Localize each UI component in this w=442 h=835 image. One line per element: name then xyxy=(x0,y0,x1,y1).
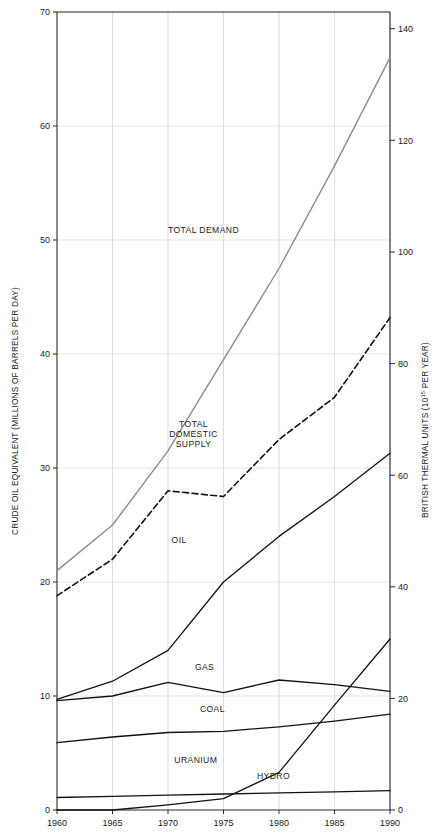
series-label-oil: OIL xyxy=(172,535,187,545)
y-axis-tick-label: 40 xyxy=(40,349,50,359)
y2-axis-tick-label: 40 xyxy=(398,582,408,592)
y-axis-tick-label: 70 xyxy=(40,7,50,17)
y2-axis-tick-label: 60 xyxy=(398,471,408,481)
y2-axis-tick-label: 140 xyxy=(398,24,413,34)
y-axis-title: CRUDE OIL EQUIVALENT (MILLIONS OF BARREL… xyxy=(11,287,20,535)
y2-axis-tick-label: 20 xyxy=(398,694,408,704)
series-label-total-domestic-supply: DOMESTIC xyxy=(169,429,218,439)
y-axis-tick-label: 0 xyxy=(45,805,50,815)
x-axis-tick-label: 1965 xyxy=(102,818,122,828)
y2-axis-tick-label: 80 xyxy=(398,359,408,369)
x-axis-tick-label: 1985 xyxy=(324,818,344,828)
y-axis-tick-label: 50 xyxy=(40,235,50,245)
y2-axis-title: BRITISH THERMAL UNITS (1015 PER YEAR) xyxy=(420,342,430,518)
series-label-coal: COAL xyxy=(200,704,225,714)
y2-axis-tick-label: 120 xyxy=(398,136,413,146)
y2-axis-tick-label: 0 xyxy=(398,805,403,815)
chart-figure: 0102030405060700204060801001201401960196… xyxy=(0,0,442,835)
x-axis-tick-label: 1975 xyxy=(213,818,233,828)
y-axis-tick-label: 60 xyxy=(40,121,50,131)
y-axis-tick-label: 20 xyxy=(40,577,50,587)
series-label-uranium: URANIUM xyxy=(174,755,217,765)
x-axis-tick-label: 1980 xyxy=(269,818,289,828)
x-axis-tick-label: 1970 xyxy=(158,818,178,828)
x-axis-tick-label: 1990 xyxy=(380,818,400,828)
series-label-total-domestic-supply: SUPPLY xyxy=(176,439,212,449)
x-axis-tick-label: 1960 xyxy=(47,818,67,828)
series-label-total-domestic-supply: TOTAL xyxy=(179,419,208,429)
series-label-gas: GAS xyxy=(195,662,214,672)
y-axis-tick-label: 10 xyxy=(40,691,50,701)
y-axis-tick-label: 30 xyxy=(40,463,50,473)
series-label-hydro: HYDRO xyxy=(257,771,290,781)
energy-supply-demand-chart: 0102030405060700204060801001201401960196… xyxy=(0,0,442,835)
series-label-total-demand: TOTAL DEMAND xyxy=(168,225,239,235)
y2-axis-tick-label: 100 xyxy=(398,247,413,257)
